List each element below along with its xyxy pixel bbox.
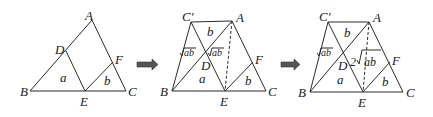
region-b-label: b (104, 73, 111, 88)
region-right-sqrt: ab (208, 47, 224, 58)
label-c-point: C (406, 85, 415, 100)
panel-1: A D F B E C a b (20, 8, 137, 109)
coefficient: 2 (350, 55, 356, 69)
dashed-segment-ae (225, 21, 232, 91)
label-cprime-point: C′ (319, 9, 331, 24)
right-arrow-icon (137, 59, 158, 70)
region-middle-2sqrt: 2 ab (350, 50, 381, 69)
region-b-label: b (382, 74, 389, 89)
region-a-label: a (60, 70, 67, 85)
region-top-label: b (344, 25, 351, 40)
label-e-point: E (79, 94, 88, 109)
triangle-abc (30, 20, 126, 91)
label-a-point: A (84, 8, 93, 23)
label-c-point: C (268, 84, 277, 99)
label-b-point: B (20, 84, 28, 99)
diagram-canvas: A D F B E C a b C′ A D F B E C b ab a (0, 0, 433, 117)
label-e-point: E (357, 95, 366, 110)
label-f-point: F (391, 53, 401, 68)
label-d-point: D (337, 58, 348, 73)
region-a-label: a (337, 72, 344, 87)
sqrt-body: ab (364, 55, 376, 69)
sqrt-body: ab (184, 47, 194, 58)
label-b-point: B (160, 84, 168, 99)
panel-2: C′ A D F B E C b ab ab a b (160, 9, 277, 109)
label-b-point: B (298, 85, 306, 100)
panel-3: C′ A D F B E C b ab 2 ab a b (298, 9, 415, 110)
region-a-label: a (199, 71, 206, 86)
region-top-label: b (207, 24, 214, 39)
label-d-point: D (54, 42, 65, 57)
label-c-point: C (128, 84, 137, 99)
segment-de (66, 51, 85, 91)
region-left-sqrt: ab (180, 47, 196, 58)
sqrt-body: ab (321, 47, 331, 58)
region-b-label: b (245, 73, 252, 88)
label-e-point: E (219, 94, 228, 109)
label-a-point: A (235, 10, 244, 25)
label-f-point: F (114, 52, 124, 67)
label-a-point: A (372, 10, 381, 25)
region-left-sqrt: ab (317, 47, 333, 58)
label-cprime-point: C′ (182, 9, 194, 24)
right-arrow-icon (281, 59, 300, 70)
sqrt-body: ab (212, 47, 222, 58)
label-f-point: F (254, 52, 264, 67)
